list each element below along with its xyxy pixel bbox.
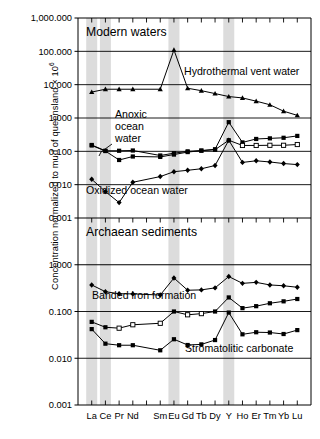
highlight-band-eu — [168, 18, 179, 405]
marker-square-open — [254, 143, 258, 147]
series-line — [92, 50, 298, 115]
marker-square-open — [268, 143, 272, 147]
x-tick-label-er: Er — [252, 411, 261, 421]
y-tick-label: 0.010 — [49, 354, 72, 364]
marker-square — [90, 143, 94, 147]
marker-diamond — [295, 162, 300, 167]
marker-square — [268, 330, 272, 334]
marker-square-open — [281, 143, 285, 147]
marker-square — [268, 301, 272, 305]
marker-diamond — [199, 287, 204, 292]
y-axis-title-text: Concentration normalized to mud of queen… — [50, 66, 60, 290]
x-tick-label-ce: Ce — [99, 411, 111, 421]
marker-square — [199, 149, 203, 153]
marker-square-open — [131, 323, 135, 327]
marker-square — [172, 309, 176, 313]
highlight-band-la — [86, 18, 97, 405]
marker-diamond — [254, 158, 259, 163]
x-tick-label-dy: Dy — [209, 411, 221, 421]
x-tick-label-tb: Tb — [196, 411, 207, 421]
marker-square-open — [186, 313, 190, 317]
marker-diamond — [213, 163, 218, 168]
marker-diamond — [254, 280, 259, 285]
y-axis-title-exponent: 6 — [48, 62, 55, 66]
marker-square — [281, 299, 285, 303]
x-tick-label-la: La — [87, 411, 98, 421]
marker-square-open — [240, 143, 244, 147]
annotation-anoxic-3: water — [114, 132, 141, 144]
marker-square — [295, 328, 299, 332]
marker-square — [103, 342, 107, 346]
marker-square — [268, 136, 272, 140]
x-tick-label-y: Y — [226, 411, 232, 421]
annotation-hydrothermal-vent-water: Hydrothermal vent water — [184, 65, 300, 77]
x-tick-label-sm: Sm — [153, 411, 167, 421]
x-tick-label-yb: Yb — [278, 411, 289, 421]
marker-square — [240, 332, 244, 336]
y-tick-label: 1,000.000 — [31, 13, 72, 23]
marker-triangle — [185, 86, 190, 91]
marker-square — [254, 137, 258, 141]
x-tick-label-tm: Tm — [263, 411, 277, 421]
marker-square — [213, 148, 217, 152]
marker-square — [254, 304, 258, 308]
marker-square — [103, 325, 107, 329]
annotation-banded-iron-formation: Banded iron formation — [92, 289, 196, 301]
x-tick-label-nd: Nd — [127, 411, 139, 421]
marker-diamond — [295, 285, 300, 290]
marker-square — [90, 327, 94, 331]
marker-square — [172, 152, 176, 156]
marker-diamond — [267, 159, 272, 164]
marker-diamond — [185, 168, 190, 173]
x-tick-label-ho: Ho — [237, 411, 249, 421]
series-markers — [89, 47, 300, 117]
series-line — [92, 297, 298, 328]
marker-square — [117, 343, 121, 347]
marker-square — [131, 148, 135, 152]
marker-square — [254, 330, 258, 334]
x-tick-label-pr: Pr — [114, 411, 123, 421]
x-tick-label-gd: Gd — [181, 411, 193, 421]
y-axis-title: Concentration normalized to mud of queen… — [48, 26, 60, 326]
marker-square — [117, 158, 121, 162]
marker-diamond — [281, 283, 286, 288]
x-tick-label-eu: Eu — [168, 411, 179, 421]
marker-square — [131, 343, 135, 347]
marker-square — [281, 332, 285, 336]
marker-square-open — [295, 142, 299, 146]
marker-diamond — [281, 161, 286, 166]
marker-square-open — [117, 326, 121, 330]
marker-square-open — [199, 312, 203, 316]
marker-square — [158, 155, 162, 159]
marker-diamond — [267, 282, 272, 287]
ree-spider-diagram-figure: Concentration normalized to mud of queen… — [0, 0, 320, 439]
marker-diamond — [199, 166, 204, 171]
annotation-anoxic-2: ocean — [115, 120, 144, 132]
marker-square — [295, 134, 299, 138]
panel-title-modern-waters: Modern waters — [86, 25, 167, 39]
x-tick-label-lu: Lu — [292, 411, 302, 421]
highlight-band-ce — [100, 18, 111, 405]
marker-square — [158, 348, 162, 352]
marker-square — [172, 337, 176, 341]
annotation-stromatolitic-carbonate: Stromatolitic carbonate — [185, 342, 293, 354]
marker-diamond — [240, 281, 245, 286]
marker-square — [295, 297, 299, 301]
marker-square — [213, 309, 217, 313]
marker-square — [131, 154, 135, 158]
y-tick-label: 0.001 — [49, 400, 72, 410]
annotation-oxidized-ocean-water: Oxidized ocean water — [86, 184, 188, 196]
marker-square — [227, 120, 231, 124]
panel-title-archaean-sediments: Archaean sediments — [86, 225, 197, 239]
marker-square — [90, 320, 94, 324]
annotation-anoxic-1: Anoxic — [115, 108, 147, 120]
marker-triangle — [281, 109, 286, 114]
marker-square — [227, 310, 231, 314]
marker-square — [240, 306, 244, 310]
marker-square-open — [158, 321, 162, 325]
marker-square — [186, 150, 190, 154]
marker-square — [227, 295, 231, 299]
marker-square — [281, 136, 285, 140]
marker-square — [117, 149, 121, 153]
marker-diamond — [158, 174, 163, 179]
